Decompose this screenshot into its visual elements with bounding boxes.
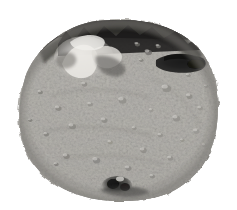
image-viewport: Grayscale photograph of an irregular, he… bbox=[0, 0, 237, 210]
asteroid-photograph: Grayscale photograph of an irregular, he… bbox=[0, 0, 237, 210]
asteroid-scene: Grayscale photograph of an irregular, he… bbox=[0, 0, 237, 210]
